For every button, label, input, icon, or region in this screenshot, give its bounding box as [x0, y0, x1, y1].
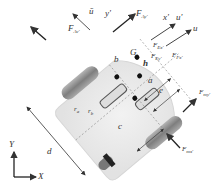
label-e: e — [159, 86, 163, 95]
axis-label-Y: Y — [9, 140, 14, 149]
label-d: d — [47, 147, 52, 156]
diagram-canvas — [0, 0, 220, 192]
label-F-Fx: FFx' — [172, 52, 183, 60]
label-u-prime: u' — [176, 13, 182, 22]
chassis-outline — [53, 46, 191, 182]
label-F-my: Fmy' — [199, 89, 210, 97]
label-F-Ey: FEy' — [151, 53, 162, 61]
label-a: a — [148, 76, 153, 85]
label-F-Ay: FAy' — [136, 9, 148, 19]
label-h: h — [143, 59, 148, 68]
label-u: u — [193, 24, 198, 33]
label-r-b: rb — [88, 108, 93, 116]
axis-label-X: X — [38, 172, 44, 181]
label-F-mx: Fmx' — [182, 146, 193, 154]
label-u-bar: ū — [89, 7, 94, 16]
robot-force-diagram: ū y' FAv' FAy' x' u' u FEx' FEy' FFx' G … — [0, 0, 220, 192]
label-F-Ex: FEx' — [153, 42, 164, 50]
label-G: G — [130, 48, 137, 57]
label-r-a: ra — [74, 106, 79, 114]
label-c: c — [118, 122, 122, 131]
label-F-Av: FAv' — [68, 24, 80, 34]
label-x-prime: x' — [163, 13, 169, 22]
label-b: b — [114, 55, 119, 64]
robot-body — [45, 17, 216, 184]
label-y-prime: y' — [105, 9, 111, 18]
